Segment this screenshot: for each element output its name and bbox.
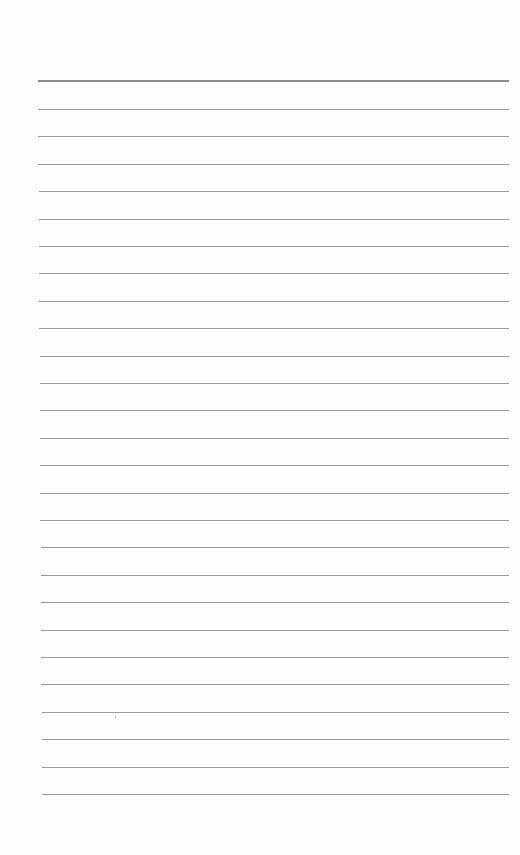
paper-speck	[115, 716, 116, 719]
rule-line	[40, 520, 509, 521]
rule-line	[39, 191, 509, 192]
rule-line	[40, 410, 509, 411]
rule-line	[39, 273, 509, 274]
rule-line	[41, 684, 509, 685]
header-rule-line	[38, 80, 509, 82]
rule-line	[39, 246, 509, 247]
rule-line	[40, 356, 509, 357]
rule-line	[41, 575, 509, 576]
rule-line	[41, 602, 509, 603]
rule-line	[40, 493, 509, 494]
rule-line	[40, 438, 509, 439]
rule-line	[38, 164, 509, 165]
rule-line	[40, 383, 509, 384]
rule-line	[42, 767, 509, 768]
rule-line	[38, 136, 509, 137]
rule-line	[41, 630, 509, 631]
rule-line	[42, 739, 509, 740]
rule-line	[42, 794, 509, 795]
rule-line	[42, 712, 509, 713]
rule-line	[41, 657, 509, 658]
rule-line	[38, 109, 509, 110]
rule-line	[39, 328, 509, 329]
rule-line	[40, 465, 509, 466]
rule-line	[39, 301, 509, 302]
rule-line	[41, 547, 509, 548]
rule-line	[39, 219, 509, 220]
lined-paper-page	[0, 0, 520, 855]
